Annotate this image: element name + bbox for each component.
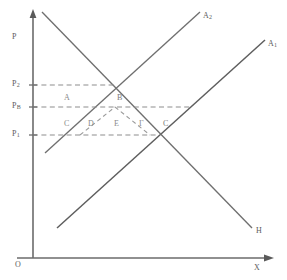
curve-label-a1-sub: 1	[274, 42, 277, 48]
curves-group	[42, 12, 265, 228]
vertical-axis-arrowhead	[30, 9, 37, 18]
price-label-pb: PB	[12, 102, 21, 110]
inner-triangle-left-edge	[80, 107, 115, 135]
horizontal-axis-arrowhead	[264, 254, 274, 261]
region-label-gamma: Γ	[139, 120, 144, 128]
curve-label-a2-sub: 2	[209, 14, 212, 20]
region-label-c-left: C	[64, 120, 70, 128]
region-label-d: D	[88, 120, 94, 128]
demand-curve-h	[42, 12, 252, 228]
region-label-a: A	[64, 94, 70, 102]
curve-label-h: H	[256, 227, 262, 235]
horizontal-axis-label: X	[254, 264, 260, 272]
diagram-canvas	[0, 0, 287, 280]
curve-label-a2: A2	[203, 12, 212, 20]
vertical-axis-label: P	[12, 33, 17, 41]
price-label-p1: P1	[12, 130, 20, 138]
inner-triangle-right-edge	[115, 107, 150, 135]
point-label-b: B	[117, 94, 123, 102]
region-label-e: E	[114, 120, 119, 128]
price-label-p2: P2	[12, 80, 20, 88]
curve-label-a1: A1	[268, 40, 277, 48]
origin-label: O	[15, 261, 21, 269]
point-label-c: C	[163, 120, 169, 128]
price-label-pb-sub: B	[17, 104, 21, 110]
supply-curve-a2	[45, 12, 200, 153]
supply-demand-figure: P X O P2 PB P1 A2 A1 H A B C D E Γ C	[0, 0, 287, 280]
price-label-p1-sub: 1	[17, 132, 20, 138]
price-label-p2-sub: 2	[17, 82, 20, 88]
